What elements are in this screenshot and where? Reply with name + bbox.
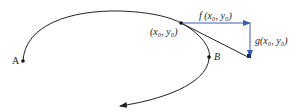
point-B <box>207 55 211 59</box>
label-B: B <box>214 52 220 62</box>
label-g: g(x₀, y₀) <box>255 36 288 46</box>
point-x0-y0 <box>179 21 183 25</box>
label-x0-y0: (x₀, y₀) <box>150 27 178 37</box>
label-A: A <box>12 56 19 66</box>
label-f: f (x₀, y₀) <box>199 11 232 21</box>
trajectory-curve <box>23 11 209 106</box>
resultant-point <box>247 54 251 58</box>
point-A <box>21 59 25 63</box>
diagram-canvas <box>0 0 303 112</box>
